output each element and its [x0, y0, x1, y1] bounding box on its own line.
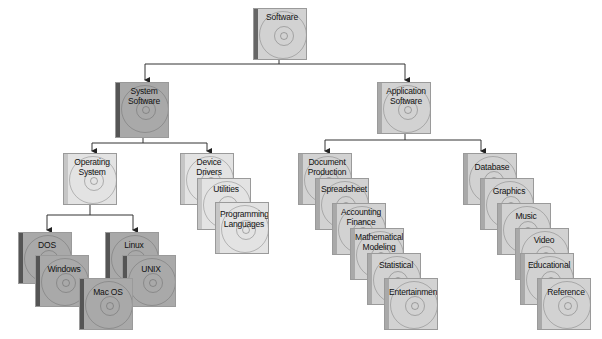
node-label: Utilities: [202, 184, 250, 194]
node-system-software: System Software: [115, 82, 169, 138]
software-hierarchy-diagram: Software System Software Application Sof…: [0, 0, 602, 339]
node-label: Reference: [542, 287, 590, 297]
node-entertainment: Entertainment: [384, 278, 438, 330]
node-label: System Software: [120, 86, 168, 106]
node-label: DOS: [23, 240, 71, 250]
node-reference: Reference: [537, 278, 591, 330]
node-application-software: Application Software: [377, 82, 431, 134]
node-label: Device Drivers: [185, 157, 233, 177]
node-label: Application Software: [382, 86, 430, 106]
node-label: Entertainment: [389, 287, 437, 297]
node-label: Operating System: [68, 157, 116, 177]
node-label: Graphics: [485, 186, 533, 196]
node-label: Database: [468, 162, 516, 172]
node-label: UNIX: [127, 264, 175, 274]
node-label: Windows: [40, 264, 88, 274]
node-label: Programming Languages: [220, 209, 268, 229]
node-label: Document Production: [303, 157, 351, 177]
node-operating-system: Operating System: [63, 153, 117, 205]
node-label: Statistical: [372, 260, 420, 270]
node-label: Educational: [525, 260, 573, 270]
node-label: Spreadsheet: [320, 184, 368, 194]
node-label: Accounting Finance: [337, 207, 385, 227]
node-programming-languages: Programming Languages: [215, 202, 269, 254]
node-label: Video: [520, 235, 568, 245]
node-label: Mathematical Modeling: [355, 232, 403, 252]
node-label: Linux: [110, 240, 158, 250]
node-label: Music: [502, 211, 550, 221]
node-label: Mac OS: [84, 287, 132, 297]
node-mac-os: Mac OS: [79, 278, 133, 330]
node-software: Software: [253, 8, 307, 60]
node-label: Software: [258, 12, 306, 22]
